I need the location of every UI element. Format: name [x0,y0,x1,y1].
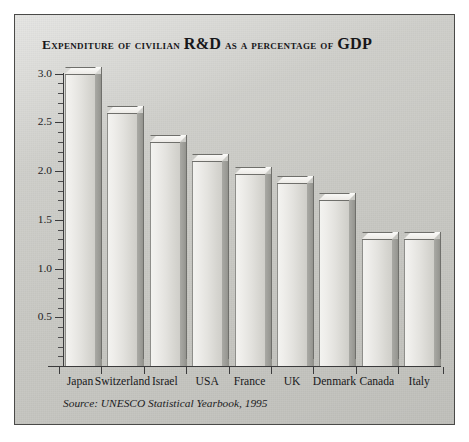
plot-area: 3.02.52.01.51.00.5 JapanSwitzerlandIsrae… [15,15,455,425]
y-tick-minor [58,327,63,328]
chart-figure: Expenditure of civilian R&D as a percent… [0,0,469,442]
y-tick-label-wrap: 1.0 [15,263,52,275]
bar-front-top-edge [404,239,434,240]
bar-japan [65,67,102,367]
y-tick-major [55,171,63,172]
y-tick-major [55,74,63,75]
y-tick-minor [58,113,63,114]
y-tick-label: 1.0 [26,263,52,274]
y-tick-minor [58,83,63,84]
y-tick-label-wrap: 2.5 [15,116,52,128]
bar-top-face [319,193,356,200]
bar-italy [404,232,441,366]
bar-front-top-edge [65,74,95,75]
bar-france [235,167,272,366]
bar-right-edge [355,193,356,359]
y-tick-label-wrap: 2.0 [15,165,52,177]
x-tick [398,367,399,374]
bar-right-edge [186,135,187,359]
y-tick-label-wrap: 1.5 [15,214,52,226]
bar-front-face [192,161,222,366]
bar-top-edge [277,176,308,177]
y-tick-major [55,317,63,318]
y-tick-minor [58,347,63,348]
bar-front-face [235,174,265,366]
y-tick-label-wrap: 3.0 [15,68,52,80]
x-tick [443,367,444,374]
y-tick-minor [58,191,63,192]
bar-front-face [404,239,434,366]
bar-top-edge [150,135,181,136]
bar-front-face [277,183,307,366]
y-tick-minor [58,93,63,94]
y-tick-minor [58,249,63,250]
y-tick-label-wrap: 0.5 [15,311,52,323]
bar-right-edge [143,106,144,360]
x-axis-line [48,366,441,367]
x-label-italy: Italy [379,376,455,389]
y-tick-minor [58,181,63,182]
y-tick-minor [58,161,63,162]
bar-denmark [319,193,356,366]
y-tick-minor [58,210,63,211]
y-tick-label: 3.0 [26,68,52,79]
bar-israel [150,135,187,366]
y-tick-minor [58,142,63,143]
bar-top-face [404,232,441,239]
source-note: Source: UNESCO Statistical Yearbook, 199… [63,397,268,409]
y-tick-minor [58,259,63,260]
bar-top-face [192,154,229,161]
bar-canada [362,232,399,366]
bar-right-edge [398,232,399,359]
bar-front-top-edge [319,200,349,201]
y-tick-major [55,220,63,221]
bar-right-edge [101,67,102,360]
bar-uk [277,176,314,366]
y-tick-minor [58,103,63,104]
bar-front-top-edge [107,113,137,114]
x-tick [144,367,145,374]
y-tick-minor [58,200,63,201]
bar-usa [192,154,229,366]
y-tick-minor [58,288,63,289]
bar-switzerland [107,106,144,367]
bar-front-top-edge [277,183,307,184]
bar-top-edge [65,67,96,68]
bar-front-face [362,239,392,366]
x-tick [101,367,102,374]
x-tick [313,367,314,374]
bar-right-edge [271,167,272,359]
bar-front-top-edge [235,174,265,175]
x-tick [229,367,230,374]
x-tick [186,367,187,374]
bar-front-face [107,113,137,367]
y-tick-minor [58,356,63,357]
x-tick [356,367,357,374]
y-tick-label: 2.0 [26,165,52,176]
bar-right-edge [313,176,314,359]
y-tick-label: 1.5 [26,214,52,225]
bar-front-face [319,200,349,366]
y-axis-line [63,73,64,367]
bar-top-face [362,232,399,239]
bar-front-top-edge [362,239,392,240]
x-tick [271,367,272,374]
y-tick-major [55,122,63,123]
bar-front-face [65,74,95,367]
bar-top-edge [107,106,138,107]
y-tick-label: 0.5 [26,311,52,322]
y-tick-label: 2.5 [26,116,52,127]
bar-right-edge [228,154,229,359]
y-tick-major [55,269,63,270]
y-tick-minor [58,152,63,153]
bar-right-edge [440,232,441,359]
y-tick-minor [58,278,63,279]
bar-top-edge [235,167,266,168]
x-tick [59,367,60,374]
y-tick-minor [58,298,63,299]
chart-panel: Expenditure of civilian R&D as a percent… [14,14,455,425]
bar-front-top-edge [150,142,180,143]
y-tick-minor [58,132,63,133]
y-tick-minor [58,230,63,231]
bar-front-face [150,142,180,366]
